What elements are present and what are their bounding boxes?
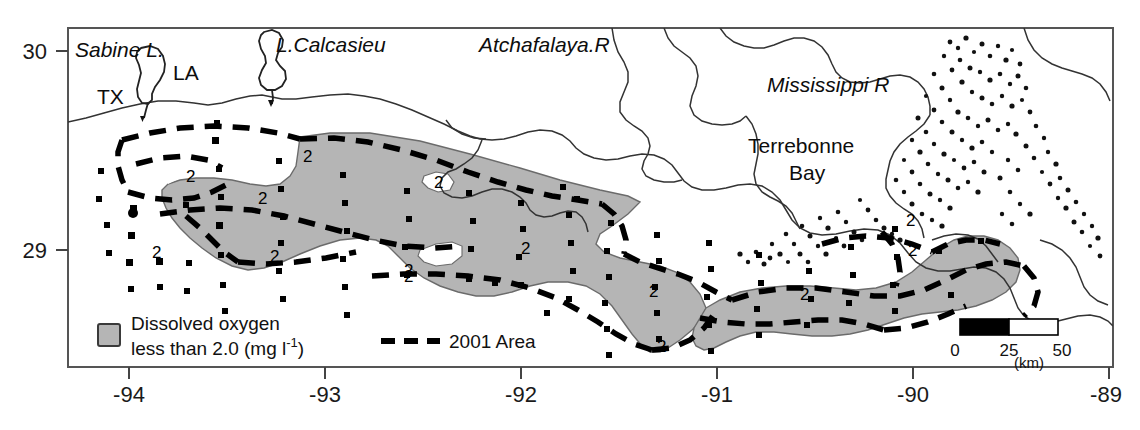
hypoxia-map-figure: 2 2 2 2 2 2 2 2 2 2 2 2 2 2: [0, 0, 1140, 430]
contour-label: 2: [270, 247, 279, 266]
label-state-la: LA: [173, 61, 199, 84]
label-sabine-lake: Sabine L.: [75, 38, 164, 61]
contour-label: 2: [906, 211, 915, 230]
legend-hypoxia-swatch: [98, 324, 120, 346]
contour-label: 2: [521, 239, 530, 258]
x-tick-label: -93: [309, 382, 341, 407]
scale-tick-50: 50: [1053, 341, 1072, 360]
legend-hypoxia-prefix: less than 2.0 (mg l: [131, 338, 286, 359]
legend-area-label: 2001 Area: [449, 331, 536, 352]
contour-label: 2: [434, 173, 443, 192]
legend-hypoxia-exponent: -1: [286, 335, 298, 350]
scale-tick-0: 0: [950, 341, 959, 360]
label-atchafalaya-river: Atchafalaya.R: [477, 33, 610, 56]
scale-bar-empty-segment: [1009, 319, 1058, 335]
scale-unit-label: (km): [1014, 354, 1044, 371]
label-terrebonne-bay-line2: Bay: [789, 161, 826, 184]
label-state-tx: TX: [97, 85, 124, 108]
x-tick-label: -94: [113, 382, 145, 407]
legend-hypoxia-line1: Dissolved oxygen: [131, 313, 280, 334]
contour-label: 2: [186, 167, 195, 186]
label-calcasieu-lake: L.Calcasieu: [276, 33, 386, 56]
contour-label: 2: [303, 147, 312, 166]
x-tick-label: -90: [897, 382, 929, 407]
x-tick-label: -91: [701, 382, 733, 407]
x-tick-label: -92: [505, 382, 537, 407]
y-tick-label: 29: [23, 238, 47, 263]
y-tick-label: 30: [23, 39, 47, 64]
contour-label: 2: [908, 241, 917, 260]
legend-hypoxia-line2: less than 2.0 (mg l-1): [131, 335, 304, 359]
scale-bar-filled-segment: [960, 319, 1009, 335]
x-tick-label: -89: [1090, 382, 1122, 407]
label-mississippi-river: Mississippi R: [767, 73, 890, 96]
map-canvas: 2 2 2 2 2 2 2 2 2 2 2 2 2 2: [0, 0, 1140, 430]
contour-label: 2: [258, 189, 267, 208]
legend-hypoxia-suffix: ): [298, 338, 304, 359]
label-terrebonne-bay-line1: Terrebonne: [748, 134, 854, 157]
